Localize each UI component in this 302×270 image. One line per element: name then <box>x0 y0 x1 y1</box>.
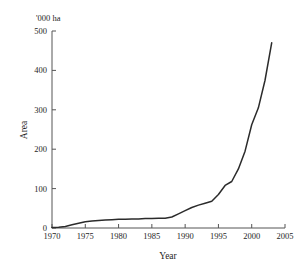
chart-container: 0100200300400500 19701975198019851990199… <box>0 0 302 270</box>
x-tick-label: 1995 <box>210 231 227 241</box>
x-tick-label: 1990 <box>177 231 194 241</box>
x-tick-label: 1980 <box>110 231 127 241</box>
data-line-area <box>52 43 272 228</box>
x-tick-label: 1975 <box>77 231 94 241</box>
y-axis-title: Area <box>19 120 29 139</box>
x-tick-label: 2000 <box>243 231 260 241</box>
x-tick-marks <box>52 224 285 228</box>
line-chart: 0100200300400500 19701975198019851990199… <box>0 0 302 270</box>
unit-label: '000 ha <box>36 13 61 23</box>
y-tick-label: 100 <box>34 184 47 194</box>
x-tick-labels: 19701975198019851990199520002005 <box>44 231 294 241</box>
y-tick-label: 400 <box>34 65 47 75</box>
x-tick-label: 1985 <box>143 231 160 241</box>
y-tick-label: 300 <box>34 105 47 115</box>
x-tick-label: 2005 <box>277 231 294 241</box>
y-tick-label: 200 <box>34 144 47 154</box>
y-tick-label: 500 <box>34 26 47 36</box>
y-tick-labels: 0100200300400500 <box>34 26 47 233</box>
data-series-group <box>52 43 272 228</box>
x-axis-title: Year <box>159 251 177 261</box>
y-tick-marks <box>52 31 56 228</box>
x-tick-label: 1970 <box>44 231 61 241</box>
